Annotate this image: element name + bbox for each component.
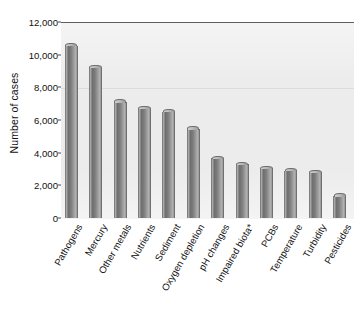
y-tick-label: 8,000 [8,82,58,93]
y-tick-label: 2,000 [8,180,58,191]
y-tick-label: 0 [8,213,58,224]
y-tick-mark [58,54,62,55]
bar-top-cap [163,109,175,112]
y-tick-mark [58,87,62,88]
y-tick-mark [58,22,62,23]
bar-top-cap [65,43,77,46]
y-tick-label: 4,000 [8,147,58,158]
x-tick-label-text: PCBs [258,222,280,249]
y-tick-mark [58,185,62,186]
bar-top-cap [212,156,224,159]
y-tick-mark [58,218,62,219]
bar-top-cap [89,65,101,68]
y-tick-label: 10,000 [8,49,58,60]
bar-top-cap [114,99,126,102]
bar [65,46,78,218]
bar-top-cap [138,106,150,109]
bar-chart-figure: Number of cases 12,00010,0008,0006,0004,… [0,0,363,323]
y-tick-label: 6,000 [8,115,58,126]
y-tick-mark [58,152,62,153]
bar-top-cap [260,166,272,169]
x-axis-labels: PathogensMercuryOther metalsNutrientsSed… [61,222,354,323]
bar-top-cap [187,126,199,129]
bar-top-cap [309,170,321,173]
y-axis-ticks: 12,00010,0008,0006,0004,0002,0000 [4,0,58,323]
y-tick-label: 12,000 [8,17,58,28]
y-tick-mark [58,120,62,121]
